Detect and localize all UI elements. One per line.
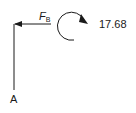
force-subscript: B xyxy=(46,16,51,23)
force-label-fb: FB xyxy=(39,11,50,23)
free-body-diagram xyxy=(0,0,136,113)
point-a-label: A xyxy=(10,94,17,105)
moment-value-label: 17.68 xyxy=(99,19,127,30)
force-symbol: F xyxy=(39,10,46,22)
moment-arc xyxy=(57,12,84,40)
